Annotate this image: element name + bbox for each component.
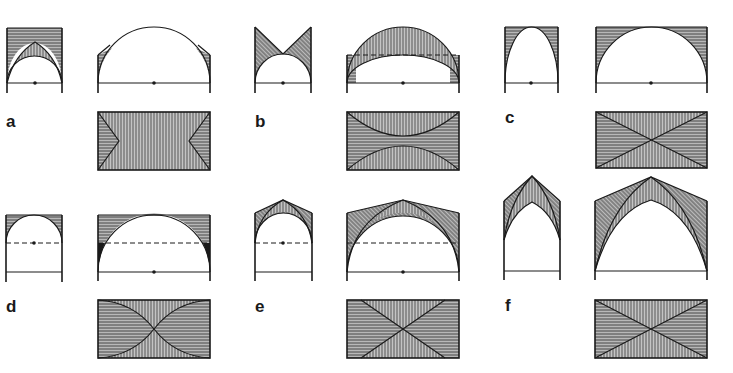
panel-f: f [504,176,707,358]
panel-b: b [255,27,459,170]
panel-a-plan [98,112,210,170]
panel-f-large-elevation [595,177,707,280]
panel-d-small-elevation [6,215,62,282]
panel-d-label: d [6,297,16,316]
panel-d-large-elevation [98,214,210,281]
panel-b-label: b [255,112,265,131]
panel-f-label: f [505,296,511,315]
panel-c: c [505,27,707,168]
panel-e-small-elevation [255,200,312,281]
vault-types-diagram: a [0,0,733,373]
panel-e-large-elevation [347,200,459,281]
panel-d: d [6,214,210,358]
panel-b-plan [347,112,459,170]
panel-c-large-elevation [596,27,707,93]
panel-e-label: e [255,297,264,316]
panel-b-large-elevation [347,27,459,93]
panel-e: e [255,200,459,358]
panel-a-large-elevation [98,27,210,93]
panel-c-small-elevation [505,27,558,93]
panel-a-label: a [6,112,16,131]
panel-a-small-elevation [7,28,62,93]
panel-e-plan [347,300,459,358]
panel-f-small-elevation [504,176,560,280]
panel-f-plan [595,300,707,358]
panel-c-label: c [505,108,514,127]
panel-c-plan [596,112,707,168]
panel-a: a [6,27,210,170]
panel-b-small-elevation [255,27,311,93]
panel-d-plan [98,300,210,358]
